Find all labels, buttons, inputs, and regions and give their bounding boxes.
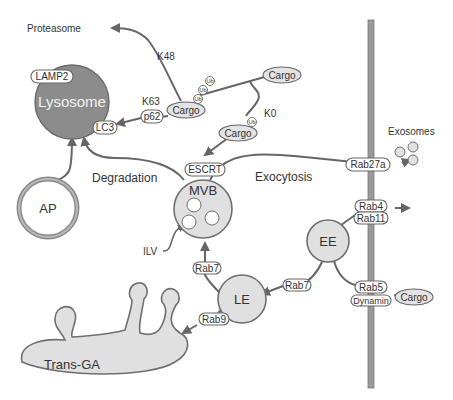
k48-label: K48 [157, 51, 175, 62]
ilv-vesicle [205, 211, 219, 225]
svg-text:Ub: Ub [206, 78, 213, 84]
ub-tag: Ub [199, 86, 208, 95]
le-label: LE [234, 292, 250, 307]
cargo-endocytic-label: Cargo [400, 292, 428, 303]
exocytosis-label: Exocytosis [255, 170, 312, 184]
svg-text:Ub: Ub [194, 96, 201, 102]
ub-tag: Ub [206, 77, 215, 86]
ub-tag: Ub [248, 118, 257, 127]
dynamin-protein: Dynamin [351, 295, 391, 306]
edge-rab9-transga [183, 325, 197, 333]
ilv-label: ILV [143, 246, 158, 257]
cargo-k0: Cargo [219, 125, 257, 141]
p62-protein: p62 [141, 110, 163, 123]
lc3-label: LC3 [96, 122, 115, 133]
cargo-endocytic: Cargo [395, 289, 433, 305]
ub-tag: Ub [194, 95, 203, 104]
edge-ee-rab5 [334, 261, 355, 285]
rab27a-label: Rab27a [350, 159, 385, 170]
rab11-label: Rab11 [357, 213, 386, 224]
rab11-protein: Rab11 [354, 212, 388, 224]
edge-ilv-pointer [163, 226, 184, 251]
lysosome-label: Lysosome [38, 93, 106, 110]
lc3-protein: LC3 [93, 121, 117, 134]
trans-golgi: Trans-GA [22, 283, 188, 374]
k63-label: K63 [142, 96, 160, 107]
k0-label: K0 [264, 108, 277, 119]
rab9-protein: Rab9 [199, 313, 229, 325]
early-endosome: EE [307, 220, 349, 262]
cargo-k0-label: Cargo [224, 128, 252, 139]
rab27a-protein: Rab27a [346, 158, 390, 171]
rab4-protein: Rab4 [355, 200, 387, 212]
rab7-ee-label: Rab7 [285, 280, 309, 291]
lamp2-label: LAMP2 [36, 71, 69, 82]
rab7-ee-protein: Rab7 [283, 279, 311, 291]
rab5-label: Rab5 [359, 282, 383, 293]
svg-text:Ub: Ub [248, 119, 255, 125]
trans-ga-label: Trans-GA [44, 357, 100, 372]
cargo-k48-label: Cargo [172, 105, 200, 116]
ap-label: AP [39, 201, 56, 216]
ilv-vesicle [182, 215, 196, 229]
cargo-surface: Cargo [263, 67, 301, 83]
ee-label: EE [319, 234, 337, 249]
cargo-surface-label: Cargo [268, 70, 296, 81]
lamp2-protein: LAMP2 [31, 70, 73, 83]
edge-k48-proteasome [112, 28, 181, 101]
escrt-label: ESCRT [188, 164, 222, 175]
mvb: MVB [174, 180, 232, 238]
svg-text:Ub: Ub [199, 87, 206, 93]
rab9-label: Rab9 [202, 314, 226, 325]
proteasome-label: Proteasome [27, 23, 81, 34]
rab7-mvb-protein: Rab7 [193, 262, 221, 274]
p62-label: p62 [144, 111, 161, 122]
edge-k0 [246, 81, 259, 116]
degradation-label: Degradation [92, 171, 157, 185]
exosomes-label: Exosomes [388, 126, 435, 137]
cargo-ub-chain: Cargo [167, 102, 205, 118]
rab4-label: Rab4 [359, 201, 383, 212]
trafficking-diagram: Lysosome LAMP2 LC3 p62 AP MVB ESCRT LE [0, 0, 453, 400]
dynamin-label: Dynamin [353, 296, 389, 306]
rab5-protein: Rab5 [355, 281, 387, 293]
mvb-label: MVB [189, 183, 217, 198]
escrt-protein: ESCRT [185, 163, 225, 176]
rab7-mvb-label: Rab7 [195, 263, 219, 274]
autophagosome: AP [19, 179, 77, 237]
edge-p62-lc3 [117, 118, 141, 124]
ilv-vesicle [187, 198, 201, 212]
